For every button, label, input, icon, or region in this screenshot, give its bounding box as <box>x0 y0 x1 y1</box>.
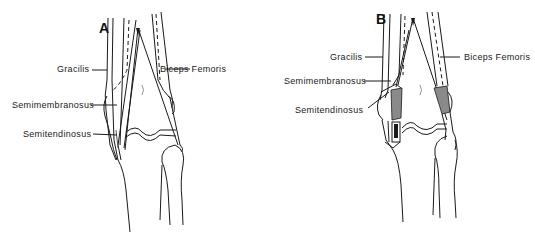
panel-b-knee-diagram: B Gracilis Biceps Femoris Semimembranosu… <box>265 0 533 239</box>
leader-line-semitendinosus <box>265 0 533 239</box>
panel-a-knee-diagram: A Gracilis Biceps Femoris Semimembranosu… <box>0 0 268 239</box>
leader-line-semitendinosus <box>0 0 268 239</box>
